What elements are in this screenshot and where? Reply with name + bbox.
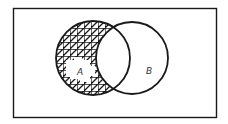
shaded-region-a-minus-b	[0, 0, 228, 124]
venn-diagram: A B	[0, 0, 228, 124]
set-b-label: B	[146, 66, 152, 76]
set-a-label: A	[76, 67, 83, 77]
